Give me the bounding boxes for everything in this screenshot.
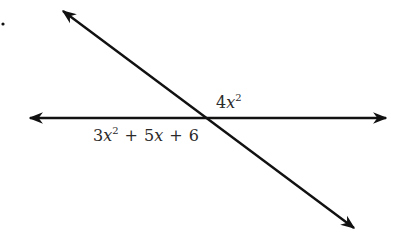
angle-label-upper-right: 4x2 bbox=[216, 92, 242, 112]
diagonal-line bbox=[63, 11, 354, 228]
angle-diagram: 4x2 3x2+5x+6 bbox=[0, 0, 393, 249]
angle-label-lower-left: 3x2+5x+6 bbox=[93, 125, 199, 145]
item-marker-dot bbox=[1, 22, 4, 25]
